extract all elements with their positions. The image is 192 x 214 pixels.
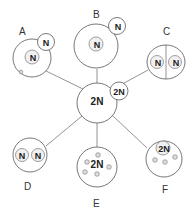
center-nucleus-label: 2N <box>91 96 104 107</box>
cell-e-granule <box>83 170 88 175</box>
cell-f: 2N F <box>146 141 182 195</box>
cell-e-granule <box>95 172 100 177</box>
cell-e-nucleus-label: 2N <box>91 159 104 170</box>
cell-f-granule <box>173 155 178 160</box>
cell-cycle-diagram: A N N B N N C N N 2N 2N N N <box>0 0 192 214</box>
label-d: D <box>24 181 31 192</box>
line-to-d <box>46 116 82 146</box>
cell-a-nucleus-label: N <box>30 53 37 63</box>
cell-f-nucleus-label: 2N <box>158 144 170 154</box>
line-to-f <box>113 116 147 148</box>
line-to-a <box>44 70 83 89</box>
cell-d-nucleus-right-label: N <box>35 151 42 161</box>
cell-f-granule <box>163 160 168 165</box>
label-a: A <box>19 26 26 37</box>
cell-e: 2N E <box>77 147 117 209</box>
cell-d: N N D <box>13 138 47 192</box>
cell-c-nucleus-left-label: N <box>155 58 162 68</box>
cell-a-bud-label: N <box>43 38 50 48</box>
cell-b: B N N <box>74 9 126 68</box>
cell-center: 2N 2N <box>77 82 128 123</box>
cell-b-nucleus-label: N <box>94 40 101 50</box>
cell-a-granule <box>19 70 23 74</box>
cell-c-nucleus-right-label: N <box>173 58 180 68</box>
cell-c: C N N <box>147 26 185 79</box>
cell-a: A N N <box>13 26 55 77</box>
cell-e-granule <box>107 165 112 170</box>
label-e: E <box>93 198 100 209</box>
cell-d-nucleus-left-label: N <box>19 151 26 161</box>
center-bud-label: 2N <box>113 87 125 97</box>
cell-b-bud-label: N <box>115 22 122 32</box>
label-b: B <box>93 9 100 20</box>
label-f: F <box>162 184 168 195</box>
cell-e-granule <box>85 160 90 165</box>
cell-e-granule <box>96 153 101 158</box>
label-c: C <box>163 26 170 37</box>
cell-f-granule <box>153 158 158 163</box>
